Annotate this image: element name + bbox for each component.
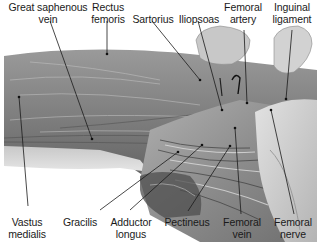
label-iliopsoas: Iliopsoas	[176, 13, 222, 25]
dissection-photo	[0, 0, 317, 242]
label-femoral-artery: Femoral artery	[220, 1, 266, 25]
label-femoral-vein: Femoral vein	[220, 216, 264, 240]
label-femoral-nerve: Femoral nerve	[270, 216, 316, 240]
retractor-finger-right	[274, 26, 312, 73]
label-vastus-medialis: Vastus medialis	[4, 216, 50, 240]
label-gracilis: Gracilis	[58, 216, 102, 228]
label-sartorius: Sartorius	[128, 13, 178, 25]
label-rectus-femoris: Rectus femoris	[86, 1, 130, 25]
retractor-finger-left	[196, 26, 250, 64]
label-inguinal-ligament: Inguinal ligament	[268, 1, 316, 25]
anatomy-figure: Great saphenous vein Rectus femoris Sart…	[0, 0, 317, 242]
label-pectineus: Pectineus	[162, 216, 212, 228]
label-great-saphenous-vein: Great saphenous vein	[0, 1, 96, 25]
label-adductor-longus: Adductor longus	[106, 216, 156, 240]
